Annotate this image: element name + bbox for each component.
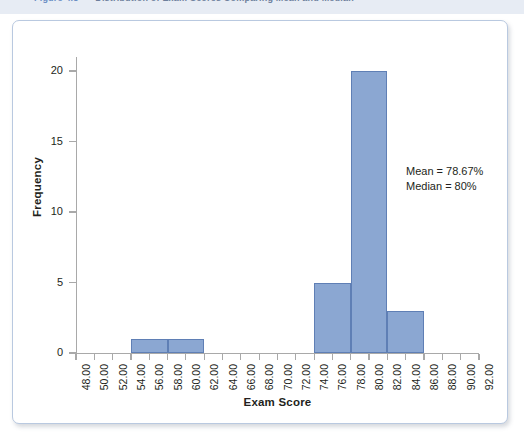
x-axis-tick [277, 354, 278, 360]
x-axis-tick [240, 354, 241, 360]
histogram-bar [131, 339, 168, 353]
y-axis-tick [69, 70, 76, 71]
x-axis-tick-label: 92.00 [483, 364, 495, 390]
x-axis-tick-label: 62.00 [208, 364, 220, 390]
y-axis-tick-label: 5 [19, 276, 63, 288]
x-axis-tick [460, 354, 461, 360]
x-axis-tick [442, 354, 443, 360]
x-axis-tick-label: 74.00 [318, 364, 330, 390]
x-axis-tick [259, 354, 260, 360]
x-axis-tick [222, 354, 223, 360]
x-axis-tick-label: 88.00 [446, 364, 458, 390]
x-axis-tick-label: 60.00 [190, 364, 202, 390]
x-axis-tick [130, 354, 131, 360]
x-axis-tick-label: 56.00 [153, 364, 165, 390]
y-axis-tick-label: 0 [19, 346, 63, 358]
x-axis-tick [350, 354, 351, 360]
figure-card: Frequency Exam Score 05101520 48.0050.00… [12, 20, 508, 424]
x-axis-tick-label: 90.00 [465, 364, 477, 390]
x-axis-tick [387, 354, 388, 360]
x-axis-tick [75, 354, 76, 360]
x-axis-title: Exam Score [76, 396, 479, 408]
x-axis-tick-label: 64.00 [227, 364, 239, 390]
histogram-bar [351, 71, 388, 353]
x-axis-tick [332, 354, 333, 360]
x-axis-tick-label: 80.00 [373, 364, 385, 390]
x-axis-tick [149, 354, 150, 360]
x-axis-tick-label: 84.00 [410, 364, 422, 390]
y-axis-tick [69, 141, 76, 142]
y-axis-line [76, 57, 77, 354]
histogram-bar [168, 339, 205, 353]
histogram-bar [314, 283, 351, 353]
y-axis-tick-label: 15 [19, 135, 63, 147]
x-axis-tick-label: 72.00 [300, 364, 312, 390]
x-axis-tick [314, 354, 315, 360]
x-axis-tick [94, 354, 95, 360]
x-axis-tick-label: 82.00 [391, 364, 403, 390]
x-axis-tick [112, 354, 113, 360]
x-axis-tick-label: 68.00 [263, 364, 275, 390]
median-annotation: Median = 80% [406, 179, 483, 194]
figure-caption-strip: Figure 4.8 Distribution of Exam Scores C… [0, 0, 524, 14]
figure-caption: Figure 4.8 Distribution of Exam Scores C… [34, 0, 354, 3]
y-axis-tick [69, 282, 76, 283]
x-axis-tick [204, 354, 205, 360]
y-axis-tick [69, 211, 76, 212]
x-axis-tick-label: 50.00 [98, 364, 110, 390]
x-axis-tick-label: 52.00 [117, 364, 129, 390]
x-axis-tick-label: 78.00 [355, 364, 367, 390]
y-axis-tick-label: 20 [19, 64, 63, 76]
x-axis-tick [368, 354, 369, 360]
histogram-bar [387, 311, 424, 353]
x-axis-tick [167, 354, 168, 360]
y-axis-tick-label: 10 [19, 205, 63, 217]
x-axis-tick [423, 354, 424, 360]
x-axis-tick [185, 354, 186, 360]
x-axis-tick-label: 58.00 [172, 364, 184, 390]
mean-annotation: Mean = 78.67% [406, 164, 483, 179]
figure-caption-label: Figure 4.8 [34, 0, 79, 3]
x-axis-tick-label: 76.00 [336, 364, 348, 390]
stats-annotation: Mean = 78.67% Median = 80% [406, 164, 483, 194]
figure-caption-title: Distribution of Exam Scores Comparing Me… [95, 0, 354, 3]
x-axis-tick-label: 86.00 [428, 364, 440, 390]
x-axis-tick-label: 66.00 [245, 364, 257, 390]
histogram-plot: Frequency Exam Score 05101520 48.0050.00… [13, 21, 509, 425]
x-axis-tick-label: 70.00 [282, 364, 294, 390]
x-axis-tick-label: 54.00 [135, 364, 147, 390]
x-axis-tick [295, 354, 296, 360]
x-axis-tick [478, 354, 479, 360]
x-axis-tick-label: 48.00 [80, 364, 92, 390]
x-axis-tick [405, 354, 406, 360]
